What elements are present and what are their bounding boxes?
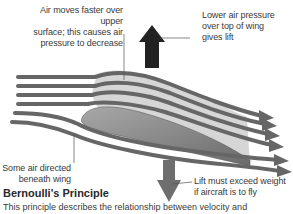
label-upper-surface: Air moves faster over upper surface; thi… (20, 5, 123, 49)
label-line: Lower air pressure (202, 10, 275, 21)
label-line: surface; this causes air (20, 27, 123, 38)
label-line: Lift must exceed weight (194, 176, 286, 187)
label-line: gives lift (202, 32, 275, 43)
down-arrow-icon (157, 160, 181, 202)
label-beneath-wing: Some air directed beneath wing (0, 163, 71, 185)
section-title: Bernoulli's Principle (3, 187, 109, 199)
label-line: beneath wing (0, 174, 71, 185)
label-line: Some air directed (0, 163, 71, 174)
label-lower-pressure: Lower air pressure over top of wing give… (202, 10, 275, 43)
section-body: This principle describes the relationshi… (3, 202, 247, 212)
label-line: over top of wing (202, 21, 275, 32)
label-lift-weight: Lift must exceed weight if aircraft is t… (194, 176, 286, 198)
label-line: pressure to decrease (20, 38, 123, 49)
label-line: Air moves faster over upper (20, 5, 123, 27)
label-line: if aircraft is to fly (194, 187, 286, 198)
lift-arrow-icon (139, 25, 165, 68)
